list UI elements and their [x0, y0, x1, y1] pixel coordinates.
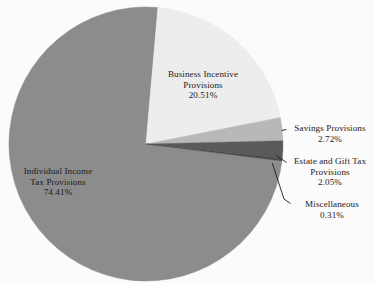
pie-label-name-line2: Tax Provisions	[4, 177, 112, 188]
pie-label-estate-and-gift-tax-provisions: Estate and Gift Tax Provisions 2.05%	[287, 156, 373, 188]
pie-label-name-line2: Provisions	[287, 167, 373, 178]
pie-label-name: Individual Income	[4, 166, 112, 177]
pie-label-name: Savings Provisions	[287, 123, 373, 134]
pie-label-miscellaneous: Miscellaneous 0.31%	[291, 199, 373, 220]
pie-label-individual-income-tax-provisions: Individual Income Tax Provisions 74.41%	[4, 166, 112, 198]
pie-label-value: 2.05%	[287, 177, 373, 188]
pie-label-value: 74.41%	[4, 187, 112, 198]
pie-label-savings-provisions: Savings Provisions 2.72%	[287, 123, 373, 144]
pie-label-value: 20.51%	[150, 90, 256, 101]
pie-label-value: 0.31%	[291, 210, 373, 221]
pie-label-name: Miscellaneous	[291, 199, 373, 210]
pie-label-name: Estate and Gift Tax	[287, 156, 373, 167]
pie-label-business-incentive-provisions: Business Incentive Provisions 20.51%	[150, 69, 256, 101]
pie-chart-figure: Business Incentive Provisions 20.51% Ind…	[0, 0, 374, 283]
pie-label-name: Business Incentive	[150, 69, 256, 80]
pie-label-value: 2.72%	[287, 134, 373, 145]
pie-label-name-line2: Provisions	[150, 80, 256, 91]
